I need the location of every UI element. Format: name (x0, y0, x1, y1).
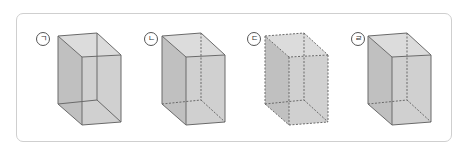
front-face (186, 55, 225, 125)
figure-label-3: ㄷ (247, 32, 261, 46)
cuboid-figures (0, 0, 470, 156)
front-face (392, 55, 431, 125)
figure-label-4: ㄹ (351, 32, 365, 46)
figure-label-1: ㄱ (36, 32, 50, 46)
front-face (82, 55, 121, 125)
figure-label-2: ㄴ (144, 32, 158, 46)
front-face (289, 55, 328, 125)
